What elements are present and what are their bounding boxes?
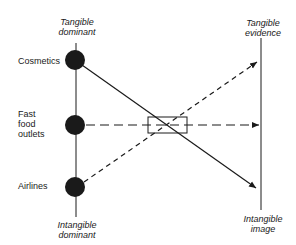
connector-cosmetics — [82, 65, 256, 188]
diagram-canvas: Tangible dominant Intangible dominant Ta… — [0, 0, 296, 245]
dot-airlines — [65, 177, 85, 197]
left-axis-top-label: Tangible dominant — [52, 17, 102, 37]
connector-airlines — [84, 62, 257, 182]
dot-fast-food — [65, 115, 85, 135]
category-label-fast-food: Fast food outlets — [18, 109, 45, 139]
category-label-airlines: Airlines — [18, 181, 48, 191]
right-axis-top-label: Tangible evidence — [238, 18, 288, 38]
dot-cosmetics — [65, 50, 85, 70]
category-label-cosmetics: Cosmetics — [18, 56, 60, 66]
right-axis-bottom-label: Intangible image — [236, 214, 290, 234]
left-axis-bottom-label: Intangible dominant — [50, 220, 104, 240]
